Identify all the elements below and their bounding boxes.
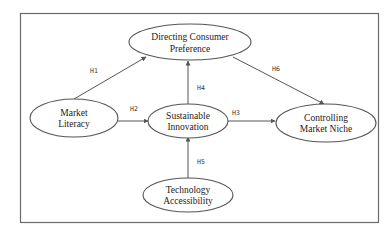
edge-label-h3: H3 <box>232 109 240 117</box>
node-technology-accessibility: Technology Accessibility <box>143 178 233 212</box>
node-label-line2: Literacy <box>58 119 90 129</box>
edge-label-h6: H6 <box>272 65 280 73</box>
node-label-line1: Sustainable <box>166 111 210 121</box>
node-label-line1: Market <box>60 108 88 118</box>
node-label-line1: Controlling <box>304 113 348 123</box>
edge-h6: H6 <box>233 57 324 104</box>
edge-label-h5: H5 <box>197 158 205 166</box>
edge-label-h2: H2 <box>130 105 138 113</box>
diagram-canvas: H1 H2 H3 H4 H5 H6 Directing Consumer Pre… <box>0 0 392 236</box>
node-label-line1: Directing Consumer <box>151 32 229 42</box>
edge-label-h4: H4 <box>197 84 205 92</box>
node-label-line2: Accessibility <box>163 196 213 206</box>
edge-h1: H1 <box>74 57 146 99</box>
node-directing-consumer-preference: Directing Consumer Preference <box>129 24 251 60</box>
edge-h3: H3 <box>228 109 275 121</box>
node-market-literacy: Market Literacy <box>30 99 118 137</box>
node-label-line2: Innovation <box>167 122 208 132</box>
edge-label-h1: H1 <box>90 67 98 75</box>
node-label-line1: Technology <box>166 185 211 195</box>
edge-h4: H4 <box>188 61 205 105</box>
edge-h2: H2 <box>118 105 148 121</box>
node-controlling-market-niche: Controlling Market Niche <box>276 104 376 142</box>
node-label-line2: Preference <box>170 44 211 54</box>
node-label-line2: Market Niche <box>300 124 353 134</box>
edge-h5: H5 <box>188 137 205 179</box>
node-sustainable-innovation: Sustainable Innovation <box>148 104 228 138</box>
